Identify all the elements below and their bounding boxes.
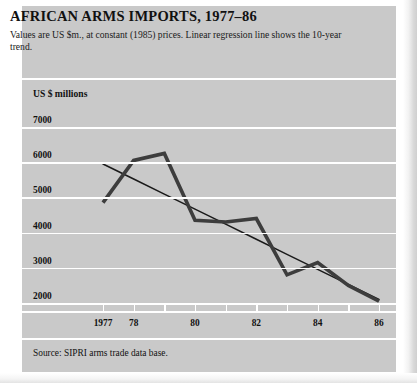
x-tick (226, 303, 227, 311)
x-tick (318, 303, 319, 311)
y-tick-label: 7000 (33, 115, 93, 125)
x-tick-label: 1977 (94, 318, 113, 328)
gridline (22, 127, 396, 129)
plot-area (22, 104, 396, 309)
data-line (103, 153, 379, 301)
gridline (22, 233, 396, 235)
footer-divider (22, 338, 396, 340)
x-tick-label: 80 (190, 318, 199, 328)
x-tick (164, 303, 165, 311)
figure: AFRICAN ARMS IMPORTS, 1977–86 Values are… (0, 0, 417, 383)
gridline (22, 162, 396, 164)
chart-title: AFRICAN ARMS IMPORTS, 1977–86 (10, 8, 362, 25)
y-tick-label: 5000 (33, 185, 93, 195)
x-tick (134, 303, 135, 311)
gridline (22, 268, 396, 270)
y-tick-label: 4000 (33, 221, 93, 231)
header-divider (22, 78, 396, 80)
x-tick (256, 303, 257, 311)
y-tick-label: 6000 (33, 150, 93, 160)
gridline (22, 197, 396, 199)
chart-header: AFRICAN ARMS IMPORTS, 1977–86 Values are… (10, 8, 362, 53)
x-tick (348, 303, 349, 311)
x-axis-line (22, 311, 396, 313)
y-tick-label: 3000 (33, 256, 93, 266)
y-tick-label: 2000 (33, 291, 93, 301)
gridline (22, 303, 396, 305)
x-tick-label: 78 (129, 318, 138, 328)
page-edge-right (403, 0, 417, 383)
x-tick (287, 303, 288, 311)
page-edge-bottom (0, 373, 417, 383)
x-tick-label: 84 (313, 318, 322, 328)
chart-subtitle: Values are US $m., at constant (1985) pr… (10, 29, 362, 53)
x-tick (103, 303, 104, 311)
data-series-svg (22, 104, 396, 309)
x-tick-label: 86 (374, 318, 383, 328)
x-tick-label: 82 (252, 318, 261, 328)
x-tick (195, 303, 196, 311)
x-tick (379, 303, 380, 311)
source-note: Source: SIPRI arms trade data base. (33, 348, 168, 358)
y-axis-label: US $ millions (33, 88, 87, 99)
